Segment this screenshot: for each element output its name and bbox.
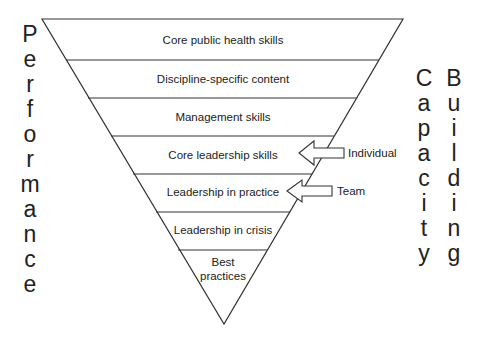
layer-label-3: Management skills [175, 111, 270, 123]
vertical-letter: n [24, 222, 37, 247]
vertical-letter: t [421, 216, 427, 241]
layer-label-2: Discipline-specific content [157, 73, 290, 85]
vertical-letter: o [24, 122, 37, 147]
layer-label-4: Core leadership skills [168, 149, 278, 161]
arrow-label-individual: Individual [348, 147, 397, 159]
layer-label-7b: practices [200, 270, 246, 282]
vertical-word-performance: Performance [18, 22, 42, 297]
vertical-letter: c [24, 247, 36, 272]
vertical-letter: e [24, 47, 37, 72]
vertical-letter: y [418, 241, 430, 266]
vertical-letter: f [27, 97, 33, 122]
vertical-letter: e [24, 272, 37, 297]
vertical-letter: B [446, 66, 461, 91]
vertical-letter: u [448, 91, 461, 116]
arrow-left-icon [299, 141, 344, 165]
layer-label-1: Core public health skills [163, 34, 284, 46]
vertical-letter: r [26, 147, 34, 172]
layer-label-6: Leadership in crisis [174, 224, 273, 236]
vertical-letter: d [448, 166, 461, 191]
vertical-word-capacity: Capacity [412, 66, 436, 266]
layer-label-7a: Best [211, 256, 235, 268]
vertical-letter: c [418, 166, 430, 191]
vertical-letter: i [421, 191, 426, 216]
vertical-letter: a [24, 197, 37, 222]
vertical-letter: p [418, 116, 431, 141]
vertical-letter: l [451, 141, 456, 166]
arrow-label-team: Team [337, 185, 365, 197]
arrow-left-icon [287, 180, 332, 202]
vertical-letter: r [26, 72, 34, 97]
vertical-letter: a [418, 141, 431, 166]
vertical-letter: C [416, 66, 433, 91]
layer-label-5: Leadership in practice [167, 186, 280, 198]
vertical-letter: g [448, 241, 461, 266]
vertical-letter: i [451, 116, 456, 141]
vertical-letter: P [22, 22, 37, 47]
vertical-word-building: Building [442, 66, 466, 266]
vertical-letter: a [418, 91, 431, 116]
vertical-letter: m [20, 172, 39, 197]
vertical-letter: n [448, 216, 461, 241]
inverted-pyramid-diagram: Core public health skills Discipline-spe… [0, 0, 478, 339]
vertical-letter: i [451, 191, 456, 216]
